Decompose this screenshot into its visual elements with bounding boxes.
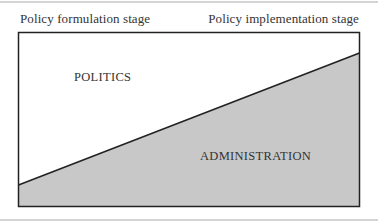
bottom-rule bbox=[0, 219, 378, 221]
politics-label: POLITICS bbox=[74, 70, 131, 85]
politics-administration-diagram bbox=[0, 0, 378, 224]
administration-label: ADMINISTRATION bbox=[200, 149, 311, 164]
